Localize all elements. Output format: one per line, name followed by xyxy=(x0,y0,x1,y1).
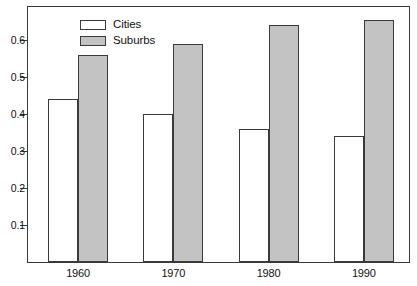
y-axis-tick-label: 0.5 xyxy=(0,72,25,83)
x-axis-tick-label: 1960 xyxy=(48,268,108,279)
legend-item-cities: Cities xyxy=(80,18,155,32)
y-axis-tick-label: 0.1 xyxy=(0,220,25,231)
gray-swatch-icon xyxy=(80,36,106,46)
y-axis-tick-label: 0.4 xyxy=(0,109,25,120)
bar-suburbs-1980 xyxy=(269,25,299,262)
bar-suburbs-1990 xyxy=(364,20,394,262)
plot-area: Cities Suburbs xyxy=(27,6,410,263)
y-axis-tick-label: 0.2 xyxy=(0,183,25,194)
y-axis-tick-label: 0.6 xyxy=(0,35,25,46)
x-axis-tick-label: 1970 xyxy=(143,268,203,279)
legend: Cities Suburbs xyxy=(80,18,155,50)
bar-cities-1990 xyxy=(334,136,364,262)
bar-cities-1960 xyxy=(48,99,78,262)
bar-suburbs-1970 xyxy=(173,44,203,262)
bar-cities-1970 xyxy=(143,114,173,262)
legend-label: Cities xyxy=(113,19,141,31)
white-swatch-icon xyxy=(80,20,106,30)
x-axis-tick-label: 1990 xyxy=(334,268,394,279)
y-axis-tick-label: 0.3 xyxy=(0,146,25,157)
legend-item-suburbs: Suburbs xyxy=(80,34,155,48)
legend-label: Suburbs xyxy=(113,35,155,47)
bar-cities-1980 xyxy=(239,129,269,262)
bar-chart: 0.10.20.30.40.50.6 Cities Suburbs 196019… xyxy=(0,0,417,286)
bar-suburbs-1960 xyxy=(78,55,108,262)
x-axis-tick-label: 1980 xyxy=(239,268,299,279)
